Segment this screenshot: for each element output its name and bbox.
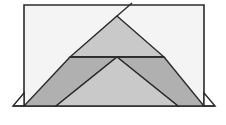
figure-canvas <box>0 0 226 125</box>
shape-layer <box>13 5 215 106</box>
figure-svg <box>0 0 226 125</box>
